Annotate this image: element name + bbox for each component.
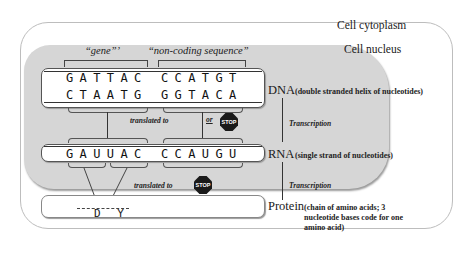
protein-description-line-1: (chain of amino acids; 3 [304,203,385,212]
rna-gene-brace-top [68,138,148,143]
rna-gene: GAUUAC [66,147,148,161]
protein-description-line-3: amino acid) [304,223,344,232]
translated-to-label-2: translated to [134,181,173,190]
rna-description: (single strand of nucleotides) [295,151,393,160]
gene-transcribe-arrow [107,112,108,138]
gene-header: “gene”ʼ [85,45,120,56]
gene-bracket [64,60,148,67]
cytoplasm-label: Cell cytoplasm [337,19,406,31]
transcription-arrow-2 [282,162,283,200]
dna-label: DNA [268,83,295,98]
dna-gene-brace [68,108,148,113]
transcription-label-1: Transcription [289,119,331,128]
rna-noncoding: CCAUGU [161,147,243,161]
dna-top-noncoding: CCATGT [161,71,243,85]
noncoding-bracket [158,60,246,67]
noncoding-transcribe-arrow [202,112,203,138]
nucleus-label: Cell nucleus [344,43,401,55]
transcription-label-2: Transcription [289,181,331,190]
noncoding-rna-brace [163,163,243,168]
rna-label: RNA [268,147,294,162]
dna-bottom-noncoding: GGTACA [161,88,243,102]
dna-noncoding-brace [163,108,243,113]
protein-label: Protein [268,199,304,214]
rna-noncoding-brace-top [163,138,243,143]
or-label: or [206,115,213,124]
dna-bottom-gene: CTAATG [66,88,148,102]
noncoding-header: “non-coding sequence” [148,45,249,56]
dna-bottom-backbone [44,102,262,103]
protein-box [41,195,265,218]
dna-description: (double stranded helix of nucleotides) [295,87,423,96]
protein-sequence: D Y [94,207,129,220]
protein-description-line-2: nucleotide bases code for one [304,213,403,222]
translated-to-label-1: translated to [130,116,169,125]
transcription-arrow-1 [282,98,283,142]
dna-top-gene: GATTAC [66,71,148,85]
